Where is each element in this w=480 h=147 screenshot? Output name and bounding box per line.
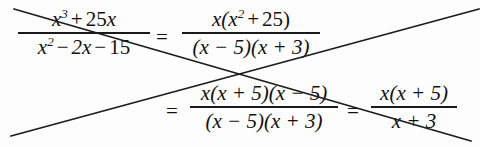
fraction-3: x(x + 5)(x − 5) (x − 5)(x + 3) xyxy=(190,82,338,132)
fraction-1-bar xyxy=(18,32,150,34)
fraction-3-denominator: (x − 5)(x + 3) xyxy=(190,110,338,132)
equals-sign-2: = xyxy=(166,99,178,124)
coefficient-25: 25 xyxy=(86,7,107,31)
term-x-squared-base: x xyxy=(38,35,47,59)
factor-x-plus-3-a: (x + 3) xyxy=(251,35,309,59)
x-open-paren: x( xyxy=(212,7,228,31)
equals-sign-1: = xyxy=(156,25,168,50)
plus-operator-2: + xyxy=(244,7,262,31)
fraction-2: x(x2+25) (x − 5)(x + 3) xyxy=(182,8,320,58)
inner-x-base: x xyxy=(228,7,237,31)
fraction-2-numerator: x(x2+25) xyxy=(182,8,320,30)
plus-operator-1: + xyxy=(68,7,86,31)
worksheet-page: x3+25x x2−2x−15 = x(x2+25) (x − 5)(x + 3… xyxy=(0,0,480,147)
minus-operator-1: − xyxy=(54,35,72,59)
close-paren-1: ) xyxy=(283,7,290,31)
fraction-1-denominator: x2−2x−15 xyxy=(18,36,150,58)
constant-15: 15 xyxy=(109,35,130,59)
fraction-4-denominator: x + 3 xyxy=(371,110,457,132)
factor-x-minus-5-a: (x − 5) xyxy=(193,35,251,59)
fraction-4-numerator: x(x + 5) xyxy=(371,82,457,104)
constant-25: 25 xyxy=(262,7,283,31)
variable-x-1: x xyxy=(107,7,116,31)
term-x-cubed-exponent: 3 xyxy=(61,6,68,21)
minus-operator-2: − xyxy=(91,35,109,59)
fraction-4: x(x + 5) x + 3 xyxy=(371,82,457,132)
fraction-4-bar xyxy=(371,106,457,108)
fraction-2-bar xyxy=(182,32,320,34)
fraction-3-bar xyxy=(190,106,338,108)
fraction-1: x3+25x x2−2x−15 xyxy=(18,8,150,58)
term-x-cubed-base: x xyxy=(52,7,61,31)
fraction-1-numerator: x3+25x xyxy=(18,8,150,30)
term-x-squared-exponent: 2 xyxy=(47,34,54,49)
equals-sign-3: = xyxy=(347,99,359,124)
term-2x: 2x xyxy=(72,35,92,59)
fraction-3-numerator: x(x + 5)(x − 5) xyxy=(190,82,338,104)
fraction-2-denominator: (x − 5)(x + 3) xyxy=(182,36,320,58)
